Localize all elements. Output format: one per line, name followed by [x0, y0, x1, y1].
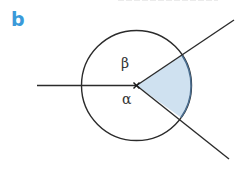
angle-label-beta: β	[121, 55, 129, 71]
angle-diagram: β α	[0, 0, 246, 169]
shaded-sector	[137, 55, 192, 117]
angle-label-alpha: α	[122, 91, 132, 107]
